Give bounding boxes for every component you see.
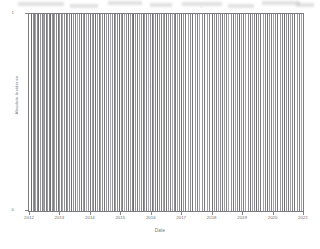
x-tick-label: 2019 xyxy=(237,215,247,220)
bar xyxy=(256,14,257,211)
y-tick-mark xyxy=(25,210,28,211)
x-axis-title: Date xyxy=(0,228,320,233)
bar xyxy=(284,14,285,211)
bar xyxy=(252,14,253,211)
bar xyxy=(269,14,270,211)
y-axis-title: Absolute Incidence xyxy=(14,40,19,150)
bar xyxy=(190,14,191,211)
y-tick-mark xyxy=(25,13,28,14)
bar xyxy=(102,14,103,211)
y-tick-label: 0 xyxy=(12,207,14,212)
bar xyxy=(231,14,232,211)
bar xyxy=(263,14,264,211)
x-tick-label: 2020 xyxy=(268,215,278,220)
bar xyxy=(207,14,208,211)
x-tick-label: 2013 xyxy=(55,215,65,220)
bar xyxy=(179,14,180,211)
bar xyxy=(185,14,186,211)
bar xyxy=(218,14,219,211)
x-tick-label: 2016 xyxy=(146,215,156,220)
bar xyxy=(79,14,80,211)
bar xyxy=(222,14,223,211)
bar xyxy=(271,14,272,211)
bar xyxy=(265,14,266,211)
bar xyxy=(235,14,236,211)
x-tick-label: 2012 xyxy=(24,215,34,220)
y-tick-label: 1 xyxy=(12,10,14,15)
bar xyxy=(172,14,173,211)
bar xyxy=(212,14,213,211)
bar xyxy=(275,14,276,211)
bar xyxy=(106,14,107,211)
bar xyxy=(224,14,225,211)
bar xyxy=(280,14,281,211)
bar xyxy=(245,14,246,211)
x-tick-label: 2014 xyxy=(85,215,95,220)
bar xyxy=(288,14,289,211)
x-tick-label: 2018 xyxy=(207,215,217,220)
bar-series xyxy=(29,14,303,211)
chart-figure: Absolute Incidence 01 201220132014201520… xyxy=(0,0,320,249)
bar xyxy=(133,14,134,211)
bar xyxy=(181,14,182,211)
bar xyxy=(273,14,274,211)
bar xyxy=(73,14,74,211)
bar xyxy=(233,14,234,211)
bar xyxy=(241,14,242,211)
bar xyxy=(228,14,229,211)
bar xyxy=(197,14,198,211)
bar xyxy=(226,14,227,211)
x-tick-label: 2015 xyxy=(115,215,125,220)
bar xyxy=(254,14,255,211)
bar xyxy=(292,14,293,211)
bar xyxy=(286,14,287,211)
bar xyxy=(54,14,55,211)
bar xyxy=(282,14,283,211)
bar xyxy=(248,14,249,211)
x-tick-label: 2017 xyxy=(176,215,186,220)
bar xyxy=(260,14,261,211)
bar xyxy=(220,14,221,211)
bar xyxy=(71,14,72,211)
bar xyxy=(290,14,291,211)
bar xyxy=(250,14,251,211)
x-tick-label: 2021 xyxy=(298,215,308,220)
bar xyxy=(97,14,98,211)
bar xyxy=(88,14,89,211)
bar xyxy=(216,14,217,211)
bar xyxy=(90,14,91,211)
bar xyxy=(67,14,68,211)
bar xyxy=(192,14,193,211)
bar xyxy=(301,14,302,211)
bar xyxy=(209,14,210,211)
bar xyxy=(183,14,184,211)
bar xyxy=(267,14,268,211)
bar xyxy=(237,14,238,211)
bar xyxy=(66,14,67,211)
bar xyxy=(35,14,36,211)
bar xyxy=(299,14,300,211)
bar xyxy=(277,14,278,211)
bar xyxy=(294,14,295,211)
bar xyxy=(258,14,259,211)
bar xyxy=(202,14,203,211)
bar xyxy=(243,14,244,211)
bar xyxy=(195,14,196,211)
bar xyxy=(239,14,240,211)
bar xyxy=(159,14,160,211)
bar xyxy=(40,14,41,211)
bar xyxy=(188,14,189,211)
plot-area xyxy=(28,13,304,212)
bar xyxy=(204,14,205,211)
bar xyxy=(297,14,298,211)
bar xyxy=(199,14,200,211)
